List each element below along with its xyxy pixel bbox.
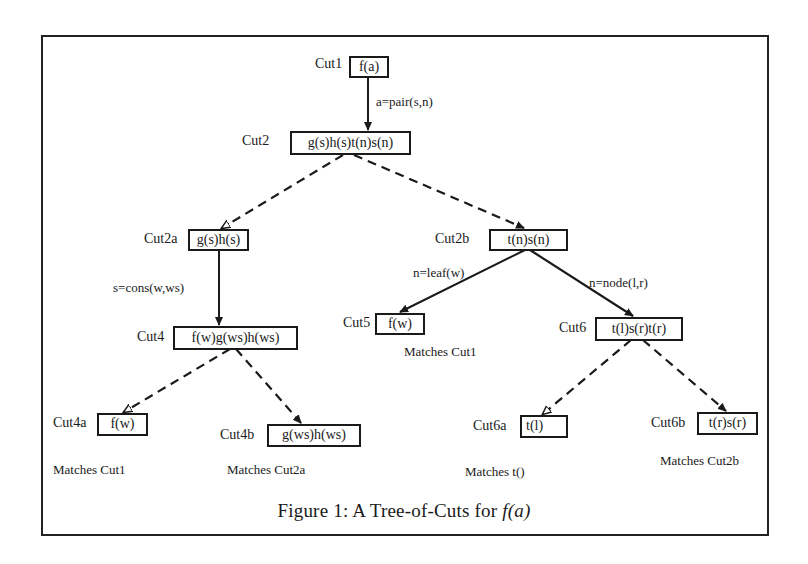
node-cut1: f(a) <box>349 56 389 78</box>
match-note-cut6b: Matches Cut2b <box>660 453 739 469</box>
edge-cut2b-cut5 <box>400 250 525 312</box>
node-cut4: f(w)g(ws)h(ws) <box>173 326 298 350</box>
edge-cut4-cut4b <box>236 349 301 423</box>
caption-math: f(a) <box>502 500 530 521</box>
match-note-cut6a: Matches t() <box>465 464 525 480</box>
node-label-cut2b: Cut2b <box>435 231 469 247</box>
edge-cut6-cut6b <box>643 340 726 411</box>
edge-label-cut2a-cut4: s=cons(w,ws) <box>113 280 184 296</box>
match-note-cut4a: Matches Cut1 <box>53 462 126 478</box>
node-cut5: f(w) <box>375 313 425 335</box>
node-cut4b: g(ws)h(ws) <box>267 424 361 447</box>
edge-cut2-cut2b <box>354 155 524 228</box>
node-cut6: t(l)s(r)t(r) <box>595 317 683 341</box>
node-label-cut2: Cut2 <box>242 133 269 149</box>
match-note-cut4b: Matches Cut2a <box>227 462 305 478</box>
node-cut6b: t(r)s(r) <box>697 412 758 435</box>
node-label-cut2a: Cut2a <box>144 231 177 247</box>
node-label-cut6b: Cut6b <box>651 415 685 431</box>
edge-label-cut2b-cut5: n=leaf(w) <box>413 265 464 281</box>
node-label-cut6a: Cut6a <box>473 418 506 434</box>
node-cut2a: g(s)h(s) <box>188 229 249 251</box>
node-label-cut1: Cut1 <box>315 56 342 72</box>
figure-caption: Figure 1: A Tree-of-Cuts for f(a) <box>0 500 808 522</box>
node-cut2: g(s)h(s)t(n)s(n) <box>290 131 411 155</box>
node-label-cut4b: Cut4b <box>220 427 254 443</box>
node-cut4a: f(w) <box>97 413 148 436</box>
match-note-cut5: Matches Cut1 <box>404 344 477 360</box>
caption-text: Figure 1: A Tree-of-Cuts for <box>277 500 502 521</box>
edge-label-cut1-cut2: a=pair(s,n) <box>376 94 433 110</box>
edge-cut4-cut4a <box>124 349 230 412</box>
edge-cut6-cut6a <box>543 340 631 414</box>
node-cut2b: t(n)s(n) <box>489 229 568 251</box>
node-label-cut4a: Cut4a <box>53 415 86 431</box>
node-label-cut4: Cut4 <box>137 329 164 345</box>
node-label-cut6: Cut6 <box>559 320 586 336</box>
node-label-cut5: Cut5 <box>343 315 370 331</box>
edge-label-cut2b-cut6: n=node(l,r) <box>589 275 648 291</box>
node-cut6a: t(l) <box>520 415 568 438</box>
edge-cut2-cut2a <box>222 155 343 228</box>
